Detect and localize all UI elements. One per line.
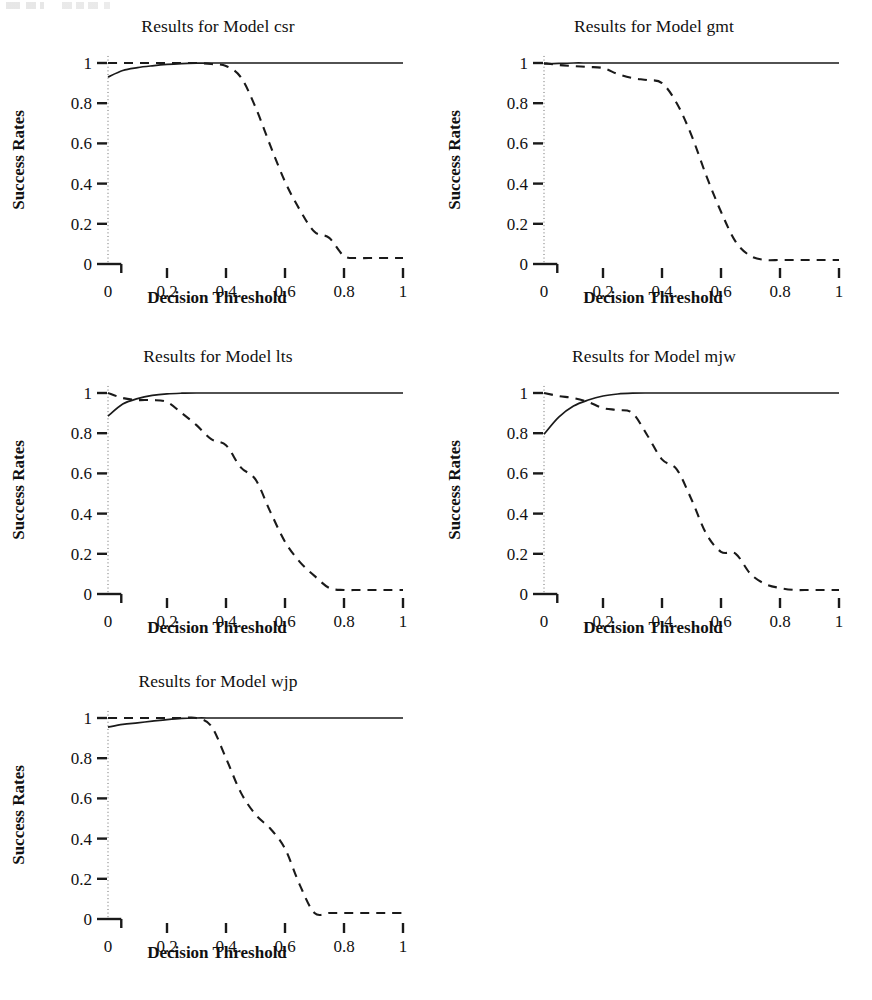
plot-area-mjw: 00.20.40.60.8100.20.40.60.81: [436, 330, 872, 650]
x-tick-label-5: 1: [399, 282, 408, 301]
y-tick-label-3: 0.6: [507, 134, 528, 153]
x-tick-label-5: 1: [399, 937, 408, 956]
y-tick-label-3: 0.6: [71, 464, 92, 483]
x-tick-label-5: 1: [399, 612, 408, 631]
y-tick-label-1: 0.2: [71, 545, 92, 564]
chart-panel-lts: Results for Model lts Success Rates Deci…: [0, 330, 436, 650]
series-line-solid: [544, 63, 839, 64]
chart-panel-gmt: Results for Model gmt Success Rates Deci…: [436, 0, 872, 320]
y-tick-label-3: 0.6: [507, 464, 528, 483]
y-tick-label-4: 0.8: [71, 749, 92, 768]
chart-panel-mjw: Results for Model mjw Success Rates Deci…: [436, 330, 872, 650]
x-tick-label-2: 0.4: [215, 937, 237, 956]
x-tick-label-0: 0: [104, 282, 113, 301]
y-tick-label-0: 0: [520, 585, 529, 604]
x-tick-label-0: 0: [540, 612, 549, 631]
x-tick-label-1: 0.2: [156, 282, 177, 301]
x-tick-label-4: 0.8: [333, 937, 354, 956]
y-tick-label-0: 0: [84, 585, 93, 604]
x-tick-label-2: 0.4: [215, 612, 237, 631]
y-tick-label-0: 0: [84, 910, 93, 929]
series-line-dashed: [108, 63, 403, 258]
plot-area-gmt: 00.20.40.60.8100.20.40.60.81: [436, 0, 872, 320]
x-tick-label-1: 0.2: [592, 282, 613, 301]
x-tick-label-4: 0.8: [333, 612, 354, 631]
y-tick-label-0: 0: [520, 255, 529, 274]
chart-panel-wjp: Results for Model wjp Success Rates Deci…: [0, 655, 436, 975]
y-tick-label-5: 1: [84, 709, 93, 728]
x-tick-label-2: 0.4: [651, 282, 673, 301]
y-tick-label-5: 1: [520, 384, 529, 403]
y-tick-label-2: 0.4: [71, 505, 93, 524]
y-tick-label-3: 0.6: [71, 134, 92, 153]
plot-area-csr: 00.20.40.60.8100.20.40.60.81: [0, 0, 436, 320]
x-tick-label-4: 0.8: [769, 612, 790, 631]
x-tick-label-2: 0.4: [651, 612, 673, 631]
y-tick-label-0: 0: [84, 255, 93, 274]
y-tick-label-1: 0.2: [507, 545, 528, 564]
series-line-solid: [108, 393, 403, 416]
x-tick-label-3: 0.6: [274, 282, 295, 301]
x-tick-label-4: 0.8: [333, 282, 354, 301]
x-tick-label-1: 0.2: [592, 612, 613, 631]
y-tick-label-4: 0.8: [71, 94, 92, 113]
y-tick-label-4: 0.8: [507, 424, 528, 443]
y-tick-label-5: 1: [84, 384, 93, 403]
x-tick-label-1: 0.2: [156, 937, 177, 956]
x-tick-label-3: 0.6: [274, 937, 295, 956]
x-tick-label-5: 1: [835, 612, 844, 631]
x-tick-label-2: 0.4: [215, 282, 237, 301]
series-line-solid: [544, 393, 839, 434]
x-tick-label-5: 1: [835, 282, 844, 301]
y-tick-label-2: 0.4: [507, 505, 529, 524]
series-line-dashed: [108, 393, 403, 590]
chart-panel-csr: Results for Model csr Success Rates Deci…: [0, 0, 436, 320]
series-line-dashed: [544, 63, 839, 260]
series-line-dashed: [544, 393, 839, 590]
y-tick-label-1: 0.2: [71, 215, 92, 234]
y-tick-label-2: 0.4: [71, 175, 93, 194]
y-tick-label-1: 0.2: [507, 215, 528, 234]
plot-area-lts: 00.20.40.60.8100.20.40.60.81: [0, 330, 436, 650]
y-tick-label-2: 0.4: [71, 830, 93, 849]
plot-area-wjp: 00.20.40.60.8100.20.40.60.81: [0, 655, 436, 975]
x-tick-label-3: 0.6: [710, 282, 731, 301]
y-tick-label-4: 0.8: [507, 94, 528, 113]
x-tick-label-4: 0.8: [769, 282, 790, 301]
y-tick-label-3: 0.6: [71, 789, 92, 808]
x-tick-label-0: 0: [104, 612, 113, 631]
y-tick-label-5: 1: [520, 54, 529, 73]
x-tick-label-3: 0.6: [274, 612, 295, 631]
y-tick-label-1: 0.2: [71, 870, 92, 889]
x-tick-label-1: 0.2: [156, 612, 177, 631]
y-tick-label-4: 0.8: [71, 424, 92, 443]
series-line-solid: [108, 63, 403, 77]
series-line-dashed: [108, 717, 403, 915]
x-tick-label-0: 0: [540, 282, 549, 301]
y-tick-label-2: 0.4: [507, 175, 529, 194]
x-tick-label-3: 0.6: [710, 612, 731, 631]
series-line-solid: [108, 718, 403, 727]
x-tick-label-0: 0: [104, 937, 113, 956]
figure-page: Results for Model csr Success Rates Deci…: [0, 0, 872, 1000]
y-tick-label-5: 1: [84, 54, 93, 73]
